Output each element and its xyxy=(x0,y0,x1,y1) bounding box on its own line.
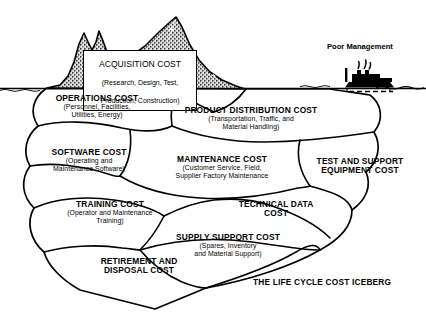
software-cost-detail-line2: Maintenance Software) xyxy=(24,165,154,173)
segment-label-operations: OPERATIONS COST (Personnel, Facilities, … xyxy=(22,94,172,119)
ship-icon xyxy=(345,60,394,92)
segment-label-technical-data: TECHNICAL DATA COST xyxy=(222,200,330,219)
poor-management-label: Poor Management xyxy=(327,42,393,51)
segment-label-retirement-and-disposal: RETIREMENT AND DISPOSAL COST xyxy=(80,257,198,276)
life-cycle-cost-iceberg-figure: ACQUISITION COST (Research, Design, Test… xyxy=(0,0,426,332)
training-cost-detail-line2: Training) xyxy=(38,217,182,225)
product-distribution-cost-detail-line1: (Transportation, Traffic, and xyxy=(176,115,326,123)
product-distribution-cost-detail-line2: Material Handling) xyxy=(176,123,326,131)
segment-label-supply-support: SUPPLY SUPPORT COST (Spares, Inventory a… xyxy=(156,233,300,258)
maintenance-cost-title: MAINTENANCE COST xyxy=(148,155,296,164)
operations-cost-title: OPERATIONS COST xyxy=(22,94,172,103)
supply-support-cost-detail-line1: (Spares, Inventory xyxy=(156,242,300,250)
maintenance-cost-detail-line2: Supplier Factory Maintenance xyxy=(148,172,296,180)
training-cost-title: TRAINING COST xyxy=(38,200,182,209)
segment-label-training: TRAINING COST (Operator and Maintenance … xyxy=(38,200,182,225)
acquisition-cost-detail-line1: (Research, Design, Test, xyxy=(102,79,179,86)
segment-label-test-and-support: TEST AND SUPPORT EQUIPMENT COST xyxy=(300,157,420,176)
retirement-and-disposal-cost-title-line2: DISPOSAL COST xyxy=(80,266,198,275)
maintenance-cost-detail-line1: (Customer Service, Field, xyxy=(148,164,296,172)
software-cost-detail-line1: (Operating and xyxy=(24,157,154,165)
segment-label-maintenance: MAINTENANCE COST (Customer Service, Fiel… xyxy=(148,155,296,180)
test-and-support-cost-title-line2: EQUIPMENT COST xyxy=(300,166,420,175)
segment-label-software: SOFTWARE COST (Operating and Maintenance… xyxy=(24,148,154,173)
operations-cost-detail-line1: (Personnel, Facilities, xyxy=(22,103,172,111)
product-distribution-cost-title: PRODUCT DISTRIBUTION COST xyxy=(176,106,326,115)
supply-support-cost-title: SUPPLY SUPPORT COST xyxy=(156,233,300,242)
segment-label-product-distribution: PRODUCT DISTRIBUTION COST (Transportatio… xyxy=(176,106,326,131)
software-cost-title: SOFTWARE COST xyxy=(24,148,154,157)
training-cost-detail-line1: (Operator and Maintenance xyxy=(38,209,182,217)
operations-cost-detail-line2: Utilities, Energy) xyxy=(22,111,172,119)
acquisition-cost-title: ACQUISITION COST xyxy=(99,59,181,69)
technical-data-cost-title-line2: COST xyxy=(222,209,330,218)
figure-caption: THE LIFE CYCLE COST ICEBERG xyxy=(253,277,391,287)
